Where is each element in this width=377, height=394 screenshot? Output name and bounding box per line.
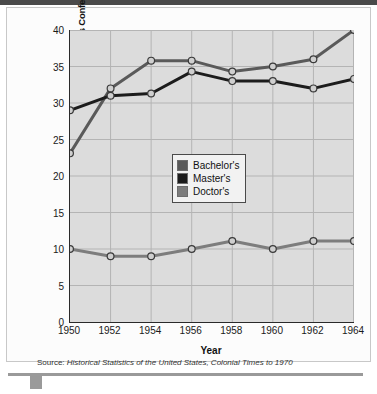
chart-figure: Percent of All Degrees Conferred 0510152… — [0, 0, 377, 394]
y-tick-label: 5 — [58, 286, 64, 297]
x-tick-label: 1958 — [220, 325, 242, 336]
legend-item: Master's — [177, 172, 239, 185]
x-tick-label: 1960 — [261, 325, 283, 336]
legend-item: Bachelor's — [177, 159, 239, 172]
x-axis-title: Year — [69, 345, 353, 356]
series-lines — [70, 30, 354, 256]
y-axis-tick-labels: 0510152025303540 — [37, 30, 64, 322]
top-band-decoration — [0, 0, 377, 5]
x-axis-tick-labels: 19501952195419561958196019621964 — [69, 325, 359, 341]
legend-swatch-icon — [177, 173, 188, 184]
x-tick-label: 1962 — [301, 325, 323, 336]
y-tick-label: 35 — [53, 67, 64, 78]
source-title: Historical Statistics of the United Stat… — [67, 358, 293, 367]
x-tick-label: 1954 — [139, 325, 161, 336]
x-tick-label: 1950 — [58, 325, 80, 336]
y-tick-label: 20 — [53, 176, 64, 187]
bottom-tab-decoration — [30, 376, 42, 389]
series-markers — [70, 30, 354, 260]
legend-item: Doctor's — [177, 185, 239, 198]
y-tick-label: 40 — [53, 30, 64, 41]
legend-label: Bachelor's — [193, 160, 239, 171]
y-tick-label: 30 — [53, 103, 64, 114]
source-label: Source: — [37, 358, 65, 367]
y-tick-label: 25 — [53, 140, 64, 151]
legend-swatch-icon — [177, 160, 188, 171]
chart-legend: Bachelor'sMaster'sDoctor's — [172, 154, 246, 203]
y-tick-label: 10 — [53, 249, 64, 260]
x-tick-label: 1952 — [98, 325, 120, 336]
legend-label: Doctor's — [193, 186, 229, 197]
bottom-rule-decoration — [8, 373, 363, 376]
source-note: Source: Historical Statistics of the Uni… — [37, 358, 293, 367]
legend-label: Master's — [193, 173, 230, 184]
chart-card: Percent of All Degrees Conferred 0510152… — [6, 7, 371, 362]
x-tick-label: 1964 — [342, 325, 364, 336]
y-tick-label: 15 — [53, 213, 64, 224]
legend-swatch-icon — [177, 186, 188, 197]
x-tick-label: 1956 — [180, 325, 202, 336]
